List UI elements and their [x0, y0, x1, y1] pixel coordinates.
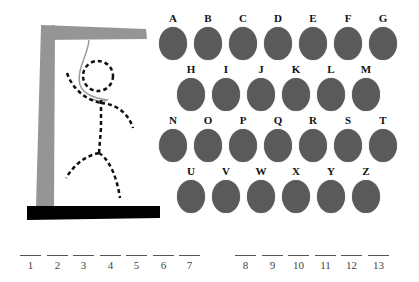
letter-button-o[interactable]: O [193, 115, 223, 161]
letter-label: Y [316, 166, 346, 177]
letter-disc[interactable] [264, 129, 292, 162]
slot-line [126, 255, 147, 256]
letter-label: S [333, 115, 363, 126]
letter-button-g[interactable]: G [368, 13, 398, 59]
letter-button-y[interactable]: Y [316, 166, 346, 212]
letter-button-i[interactable]: I [211, 64, 241, 110]
letter-button-b[interactable]: B [193, 13, 223, 59]
letter-button-w[interactable]: W [246, 166, 276, 212]
letter-label: D [263, 13, 293, 24]
letter-button-x[interactable]: X [281, 166, 311, 212]
letter-slot: 12 [341, 255, 362, 275]
figure-body [99, 100, 101, 153]
letter-slot: 13 [368, 255, 389, 275]
letter-label: W [246, 166, 276, 177]
letter-button-m[interactable]: M [351, 64, 381, 110]
slot-line [262, 255, 283, 256]
slot-number: 10 [288, 259, 309, 271]
letter-disc[interactable] [299, 27, 327, 60]
letter-slot: 10 [288, 255, 309, 275]
letter-button-k[interactable]: K [281, 64, 311, 110]
letter-label: O [193, 115, 223, 126]
letter-disc[interactable] [177, 78, 205, 111]
letter-disc[interactable] [299, 129, 327, 162]
letter-label: I [211, 64, 241, 75]
slot-line [179, 255, 200, 256]
letter-label: K [281, 64, 311, 75]
letter-disc[interactable] [212, 78, 240, 111]
letter-button-n[interactable]: N [158, 115, 188, 161]
gallows-post [36, 25, 55, 207]
letter-label: G [368, 13, 398, 24]
letter-disc[interactable] [352, 78, 380, 111]
gallows-drawing [0, 0, 165, 230]
letter-disc[interactable] [177, 180, 205, 213]
letter-slot: 9 [262, 255, 283, 275]
letter-slot: 3 [73, 255, 94, 275]
letter-button-h[interactable]: H [176, 64, 206, 110]
letter-disc[interactable] [282, 180, 310, 213]
slot-line [73, 255, 94, 256]
letter-label: T [368, 115, 398, 126]
letter-label: C [228, 13, 258, 24]
letter-button-e[interactable]: E [298, 13, 328, 59]
letter-slot: 8 [235, 255, 256, 275]
letter-button-t[interactable]: T [368, 115, 398, 161]
letter-button-f[interactable]: F [333, 13, 363, 59]
letter-disc[interactable] [194, 129, 222, 162]
letter-disc[interactable] [247, 78, 275, 111]
letter-slot: 6 [153, 255, 174, 275]
slot-line [20, 255, 41, 256]
letter-disc[interactable] [352, 180, 380, 213]
letter-disc[interactable] [334, 129, 362, 162]
letter-disc[interactable] [229, 129, 257, 162]
letter-disc[interactable] [317, 180, 345, 213]
letter-disc[interactable] [212, 180, 240, 213]
slot-number: 6 [153, 259, 174, 271]
letter-label: J [246, 64, 276, 75]
slot-number: 2 [47, 259, 68, 271]
letter-label: N [158, 115, 188, 126]
letter-button-z[interactable]: Z [351, 166, 381, 212]
letter-label: A [158, 13, 188, 24]
letter-label: P [228, 115, 258, 126]
letter-label: E [298, 13, 328, 24]
letter-disc[interactable] [369, 129, 397, 162]
letter-disc[interactable] [194, 27, 222, 60]
figure-head [83, 61, 113, 91]
gallows-base [27, 206, 160, 220]
letter-disc[interactable] [334, 27, 362, 60]
letter-button-a[interactable]: A [158, 13, 188, 59]
slot-number: 13 [368, 259, 389, 271]
letter-label: L [316, 64, 346, 75]
slot-line [100, 255, 121, 256]
letter-slot: 2 [47, 255, 68, 275]
letter-button-q[interactable]: Q [263, 115, 293, 161]
letter-button-p[interactable]: P [228, 115, 258, 161]
slot-line [47, 255, 68, 256]
letter-disc[interactable] [369, 27, 397, 60]
letter-button-l[interactable]: L [316, 64, 346, 110]
letter-slot: 4 [100, 255, 121, 275]
letter-button-r[interactable]: R [298, 115, 328, 161]
letter-disc[interactable] [229, 27, 257, 60]
letter-button-c[interactable]: C [228, 13, 258, 59]
letter-slot: 5 [126, 255, 147, 275]
letter-button-j[interactable]: J [246, 64, 276, 110]
gallows-beam [41, 25, 147, 40]
letter-button-d[interactable]: D [263, 13, 293, 59]
letter-disc[interactable] [247, 180, 275, 213]
letter-button-u[interactable]: U [176, 166, 206, 212]
letter-button-v[interactable]: V [211, 166, 241, 212]
letter-disc[interactable] [159, 27, 187, 60]
letter-disc[interactable] [282, 78, 310, 111]
letter-button-s[interactable]: S [333, 115, 363, 161]
slot-line [288, 255, 309, 256]
letter-disc[interactable] [317, 78, 345, 111]
figure-right-arm [101, 103, 133, 128]
slot-line [368, 255, 389, 256]
letter-label: R [298, 115, 328, 126]
slot-line [315, 255, 336, 256]
letter-disc[interactable] [264, 27, 292, 60]
letter-disc[interactable] [159, 129, 187, 162]
